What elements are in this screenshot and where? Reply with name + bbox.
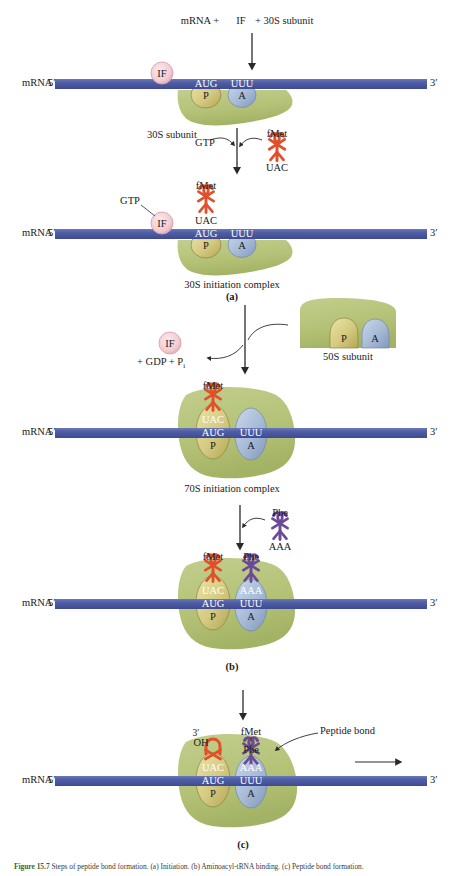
three-prime-4: 3′ bbox=[430, 598, 438, 609]
release-products-text: + GDP + P bbox=[137, 356, 183, 367]
50s-in-curve bbox=[248, 324, 288, 340]
fmet-trna-in-arrow bbox=[240, 138, 262, 146]
header-text-part2: + 30S subunit bbox=[255, 16, 313, 27]
five-prime-2: 5′ bbox=[48, 228, 56, 239]
figure-svg bbox=[0, 0, 450, 876]
site-p-5: P bbox=[210, 789, 216, 800]
panel-c-label: (c) bbox=[237, 840, 249, 851]
release-products-subscript: i bbox=[183, 362, 185, 370]
site-p-50s: P bbox=[341, 334, 347, 345]
fmet-label-bound-a: fMet bbox=[196, 181, 216, 192]
peptide-bond-label: Peptide bond bbox=[320, 726, 375, 737]
complex-70s-label: 70S initiation complex bbox=[184, 484, 280, 495]
five-prime-1: 5′ bbox=[48, 78, 56, 89]
figure-caption: Figure 15.7 Steps of peptide bond format… bbox=[14, 862, 444, 876]
codon-p-4: AUG bbox=[202, 599, 225, 610]
codon-a-1: UUU bbox=[231, 79, 254, 90]
anticodon-phe-c: AAA bbox=[240, 763, 263, 774]
subunit-30s-label: 30S subunit bbox=[147, 130, 197, 141]
phe-in-arrow bbox=[243, 518, 265, 527]
site-a-1: A bbox=[238, 91, 246, 102]
codon-a-2: UUU bbox=[231, 229, 254, 240]
anticodon-phe-b: AAA bbox=[240, 586, 263, 597]
site-a-3: A bbox=[247, 441, 255, 452]
if-label-1: IF bbox=[157, 69, 166, 80]
fmet-label-free: fMet bbox=[267, 129, 287, 140]
site-a-2: A bbox=[238, 241, 246, 252]
codon-a-3: UUU bbox=[240, 428, 263, 439]
codon-p-1: AUG bbox=[195, 79, 218, 90]
three-prime-3: 3′ bbox=[430, 427, 438, 438]
complex-30s-label: 30S initiation complex bbox=[184, 280, 280, 291]
site-a-5: A bbox=[247, 789, 255, 800]
oh-label: OH bbox=[193, 738, 208, 749]
if-release-arrow bbox=[208, 345, 243, 358]
codon-a-5: UUU bbox=[240, 776, 263, 787]
anticodon-fmet-free: UAC bbox=[266, 163, 288, 174]
subunit-50s-label: 50S subunit bbox=[323, 352, 373, 363]
phe-label-free: Phe bbox=[272, 508, 288, 519]
site-p-2: P bbox=[203, 241, 209, 252]
translation-figure bbox=[0, 0, 450, 876]
gtp-leader-line bbox=[141, 205, 155, 216]
three-prime-2: 3′ bbox=[430, 228, 438, 239]
site-p-1: P bbox=[203, 91, 209, 102]
codon-p-5: AUG bbox=[202, 776, 225, 787]
phe-label-b: Phe bbox=[243, 552, 259, 563]
three-prime-1: 3′ bbox=[430, 78, 438, 89]
gtp-label-1: GTP bbox=[195, 138, 215, 149]
phe-label-c: Phe bbox=[243, 745, 259, 756]
if-label-released: IF bbox=[165, 339, 174, 350]
anticodon-fmet-b: UAC bbox=[202, 586, 224, 597]
figure-caption-text: Steps of peptide bond formation. (a) Ini… bbox=[51, 862, 363, 871]
panel-b-label: (b) bbox=[226, 662, 239, 673]
release-products: + GDP + Pi bbox=[137, 357, 185, 370]
site-a-50s: A bbox=[371, 334, 379, 345]
header-text-part1: mRNA + bbox=[181, 16, 219, 27]
gtp-label-2: GTP bbox=[120, 196, 140, 207]
site-p-4: P bbox=[210, 612, 216, 623]
anticodon-fmet-c: UAC bbox=[202, 763, 224, 774]
panel-a-label: (a) bbox=[226, 292, 238, 303]
fmet-label-70s: fMet bbox=[203, 381, 223, 392]
fmet-label-b: fMet bbox=[203, 552, 223, 563]
header-if-label: IF bbox=[236, 16, 245, 27]
if-label-2: IF bbox=[157, 219, 166, 230]
figure-number: Figure 15.7 bbox=[14, 862, 50, 871]
codon-p-3: AUG bbox=[202, 428, 225, 439]
site-p-3: P bbox=[210, 441, 216, 452]
codon-a-4: UUU bbox=[240, 599, 263, 610]
anticodon-phe-free: AAA bbox=[269, 542, 292, 553]
five-prime-3: 5′ bbox=[48, 427, 56, 438]
anticodon-fmet-a: UAC bbox=[195, 216, 217, 227]
codon-p-2: AUG bbox=[195, 229, 218, 240]
five-prime-4: 5′ bbox=[48, 598, 56, 609]
three-prime-5: 3′ bbox=[430, 775, 438, 786]
anticodon-fmet-70s: UAC bbox=[202, 415, 224, 426]
site-a-4: A bbox=[247, 612, 255, 623]
five-prime-5: 5′ bbox=[48, 775, 56, 786]
